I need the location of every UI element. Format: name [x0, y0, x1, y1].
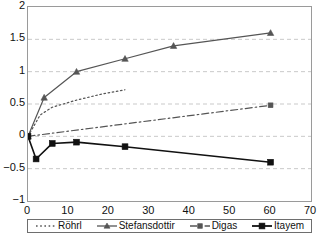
marker-itayem	[49, 141, 55, 147]
dotted-line-swatch	[35, 221, 57, 231]
marker-digas	[268, 103, 273, 108]
solid-square-line-swatch	[251, 221, 273, 231]
x-tick-label: 40	[183, 205, 195, 216]
legend-label: Digas	[212, 221, 238, 231]
x-tick-label: 50	[223, 205, 235, 216]
y-tick-label: 1	[19, 65, 25, 76]
x-axis-tick-labels: 010203040506070	[0, 205, 319, 219]
y-axis-tick-labels: 21.510.50−0.5−1	[0, 0, 25, 210]
x-tick-label: 10	[61, 205, 73, 216]
solid-triangle-line-swatch	[96, 221, 118, 231]
marker-itayem	[122, 144, 128, 150]
legend-entry-itayem[interactable]: Itayem	[251, 221, 304, 231]
y-tick-label: 1.5	[10, 32, 25, 43]
marker-itayem	[33, 156, 39, 162]
legend-label: Stefansdottir	[119, 221, 175, 231]
y-tick-label: 0.5	[10, 97, 25, 108]
marker-itayem	[268, 159, 274, 165]
y-tick-label: 2	[19, 0, 25, 11]
plot-canvas	[28, 7, 311, 201]
marker-itayem	[28, 133, 31, 139]
chart-legend: RöhrlStefansdottirDigasItayem	[27, 219, 312, 233]
y-tick-label: 0	[19, 129, 25, 140]
legend-label: Itayem	[274, 221, 304, 231]
series-group	[28, 33, 271, 162]
line-chart: 21.510.50−0.5−1 010203040506070 RöhrlSte…	[0, 0, 319, 234]
legend-entry-digas[interactable]: Digas	[189, 221, 238, 231]
legend-entry-stefansdottir[interactable]: Stefansdottir	[96, 221, 175, 231]
legend-entry-rhrl[interactable]: Röhrl	[35, 221, 82, 231]
series-line-digas	[28, 105, 271, 136]
x-tick-label: 70	[304, 205, 316, 216]
series-markers-group	[28, 30, 274, 165]
x-tick-label: 20	[102, 205, 114, 216]
y-tick-label: −0.5	[3, 162, 25, 173]
x-tick-label: 0	[24, 205, 30, 216]
x-tick-label: 30	[142, 205, 154, 216]
marker-itayem	[74, 139, 80, 145]
dashdot-square-line-swatch	[189, 221, 211, 231]
x-tick-label: 60	[263, 205, 275, 216]
series-line-itayem	[28, 136, 271, 162]
legend-label: Röhrl	[58, 221, 82, 231]
plot-area	[27, 6, 312, 202]
